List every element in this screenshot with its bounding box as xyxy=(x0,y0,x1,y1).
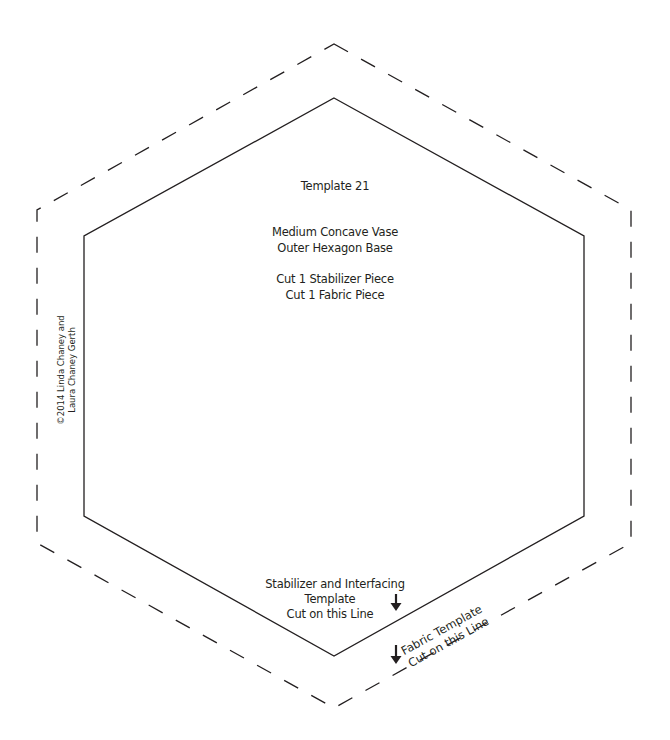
template-name-line2: Outer Hexagon Base xyxy=(0,241,670,256)
copyright-line2: Laura Chaney Gerth xyxy=(67,310,78,430)
cut-instruction-fabric: Cut 1 Fabric Piece xyxy=(0,288,670,303)
stabilizer-label-line3: Cut on this Line xyxy=(250,607,410,622)
stabilizer-label-line2: Template xyxy=(250,592,410,607)
copyright-line1: ©2014 Linda Chaney and xyxy=(56,310,67,430)
cut-instruction-stabilizer: Cut 1 Stabilizer Piece xyxy=(0,272,670,287)
template-name-line1: Medium Concave Vase xyxy=(0,225,670,240)
hexagon-template-diagram xyxy=(0,0,670,740)
template-title: Template 21 xyxy=(0,179,670,194)
stabilizer-label-line1: Stabilizer and Interfacing xyxy=(250,577,420,592)
copyright-notice: ©2014 Linda Chaney and Laura Chaney Gert… xyxy=(56,310,78,430)
